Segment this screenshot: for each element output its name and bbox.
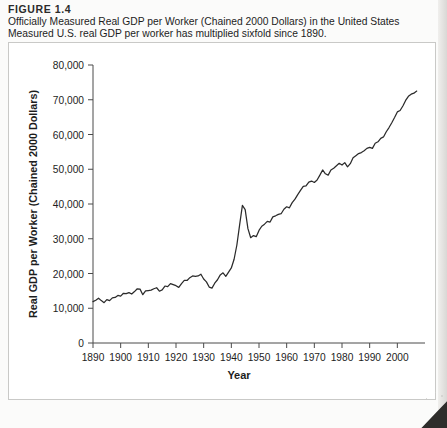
x-axis-tick-label: 1900 bbox=[109, 352, 132, 363]
x-axis-tick-label: 1950 bbox=[248, 352, 271, 363]
y-axis-tick-label: 10,000 bbox=[53, 303, 84, 314]
figure-description: Officially Measured Real GDP per Worker … bbox=[8, 16, 440, 41]
y-axis-tick-label: 0 bbox=[78, 338, 84, 349]
figure-caption: FIGURE 1.4 Officially Measured Real GDP … bbox=[8, 3, 440, 41]
y-axis-title: Real GDP per Worker (Chained 2000 Dollar… bbox=[27, 89, 39, 318]
y-axis-tick-label: 30,000 bbox=[53, 234, 84, 245]
x-axis-tick-label: 1940 bbox=[220, 352, 243, 363]
x-axis-tick-label: 1990 bbox=[358, 352, 381, 363]
page-right-edge bbox=[438, 0, 447, 428]
y-axis-tick-label: 40,000 bbox=[53, 199, 84, 210]
chart-container: 010,00020,00030,00040,00050,00060,00070,… bbox=[8, 42, 436, 400]
data-line-real-gdp-per-worker bbox=[93, 91, 417, 303]
y-axis-tick-label: 20,000 bbox=[53, 269, 84, 280]
x-axis-tick-label: 1980 bbox=[331, 352, 354, 363]
x-axis-tick-label: 1910 bbox=[137, 352, 160, 363]
x-axis-tick-label: 2000 bbox=[386, 352, 409, 363]
x-axis-title: Year bbox=[227, 369, 251, 381]
x-axis-tick-label: 1930 bbox=[192, 352, 215, 363]
x-axis-tick-label: 1920 bbox=[165, 352, 188, 363]
x-axis-tick-label: 1890 bbox=[82, 352, 105, 363]
figure-number: FIGURE 1.4 bbox=[8, 3, 440, 15]
gdp-per-worker-line-chart: 010,00020,00030,00040,00050,00060,00070,… bbox=[9, 43, 435, 399]
y-axis-tick-label: 70,000 bbox=[53, 95, 84, 106]
y-axis-tick-label: 60,000 bbox=[53, 130, 84, 141]
x-axis-tick-label: 1970 bbox=[303, 352, 326, 363]
y-axis-tick-label: 50,000 bbox=[53, 164, 84, 175]
x-axis-tick-label: 1960 bbox=[275, 352, 298, 363]
y-axis-tick-label: 80,000 bbox=[53, 60, 84, 71]
